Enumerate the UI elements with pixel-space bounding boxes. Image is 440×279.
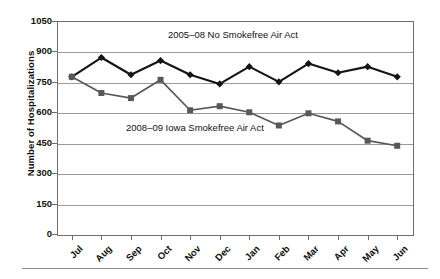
data-point [128,95,134,101]
x-axis-tick-label-jan: Jan [243,243,262,262]
data-point [394,143,400,149]
x-axis-tick-label-nov: Nov [182,243,202,263]
data-point [98,90,104,96]
y-axis-tick-label: 600 [14,107,52,117]
y-axis-tick-label: 1050 [14,16,52,26]
y-axis-tick-label: 300 [14,168,52,178]
x-axis-tick-label-may: May [360,243,381,264]
data-point [276,122,282,128]
series-2 [69,74,400,149]
series-line [72,77,397,146]
x-axis-tick-label-jul: Jul [67,243,84,260]
data-point [157,57,164,64]
y-axis-tick-label: 0 [14,229,52,239]
chart-figure: Number of Hospitalizations 0150300450600… [0,0,440,279]
x-axis-tick-label-feb: Feb [272,243,292,263]
x-axis-tick-label-oct: Oct [154,243,173,262]
series-1 [68,54,401,88]
data-point [158,77,164,83]
data-point [365,138,371,144]
x-axis-tick-label-apr: Apr [331,243,350,262]
data-point [334,69,341,76]
data-point [187,107,193,113]
y-axis-tick-label: 150 [14,199,52,209]
x-axis-tick-label-jun: Jun [390,243,410,263]
series-line [72,58,397,84]
x-axis-tick-label-aug: Aug [93,243,114,264]
data-point [335,118,341,124]
x-axis-tick-label-mar: Mar [301,243,321,263]
data-point [305,110,311,116]
footer-divider [22,268,428,269]
data-point [217,103,223,109]
data-point [246,109,252,115]
annotation-iowa-smokefree-air-act: 2008–09 Iowa Smokefree Air Act [126,122,264,133]
y-axis-tick-labels: 01503004506007509001050 [12,0,52,279]
y-axis-tick-label: 900 [14,46,52,56]
y-axis-tick-label: 450 [14,138,52,148]
data-point [187,71,194,78]
x-axis-tick-label-sep: Sep [124,243,144,263]
data-point [394,73,401,80]
x-axis-tick-label-dec: Dec [212,243,232,263]
data-point [364,63,371,70]
data-point [69,74,75,80]
annotation-no-smokefree-air-act: 2005–08 No Smokefree Air Act [168,29,298,40]
y-axis-tick-label: 750 [14,77,52,87]
